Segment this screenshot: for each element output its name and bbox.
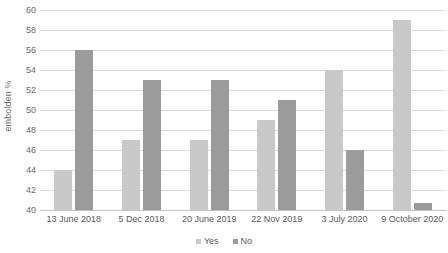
bar-no[interactable]: [414, 203, 432, 210]
bar-yes[interactable]: [122, 140, 140, 210]
bar-no[interactable]: [346, 150, 364, 210]
bar-no[interactable]: [75, 50, 93, 210]
x-axis-tick-label: 9 October 2020: [378, 212, 446, 228]
legend-label: Yes: [204, 237, 219, 246]
y-axis-tick-label: 48: [16, 126, 36, 135]
axis-baseline: [40, 210, 446, 211]
y-axis-tick-label: 52: [16, 86, 36, 95]
bar-yes[interactable]: [393, 20, 411, 210]
bar-group: [108, 10, 176, 210]
legend-item-yes[interactable]: Yes: [196, 237, 219, 246]
bar-no[interactable]: [143, 80, 161, 210]
y-axis-tick-label: 40: [16, 206, 36, 215]
y-axis-tick-label: 60: [16, 6, 36, 15]
x-axis-tick-label: 22 Nov 2019: [243, 212, 311, 228]
bar-chart: embolden % 6058565452504846444240 13 Jun…: [0, 0, 448, 253]
legend-label: No: [241, 237, 253, 246]
y-axis-title-label: embolden %: [3, 80, 13, 131]
legend-swatch-icon: [233, 239, 238, 244]
bar-no[interactable]: [211, 80, 229, 210]
x-axis-tick-labels: 13 June 20185 Dec 201820 June 201922 Nov…: [40, 212, 446, 228]
bar-yes[interactable]: [325, 70, 343, 210]
x-axis-tick-label: 13 June 2018: [40, 212, 108, 228]
bars-layer: [40, 10, 446, 210]
y-axis-tick-label: 58: [16, 26, 36, 35]
plot-area: [40, 10, 446, 210]
bar-group: [378, 10, 446, 210]
y-axis-tick-label: 44: [16, 166, 36, 175]
y-axis-tick-label: 56: [16, 46, 36, 55]
legend-item-no[interactable]: No: [233, 237, 253, 246]
y-axis-tick-label: 42: [16, 186, 36, 195]
bar-yes[interactable]: [190, 140, 208, 210]
x-axis-tick-label: 20 June 2019: [175, 212, 243, 228]
legend-swatch-icon: [196, 239, 201, 244]
bar-group: [175, 10, 243, 210]
bar-yes[interactable]: [54, 170, 72, 210]
y-axis-tick-label: 50: [16, 106, 36, 115]
x-axis-tick-label: 3 July 2020: [311, 212, 379, 228]
bar-no[interactable]: [278, 100, 296, 210]
bar-group: [243, 10, 311, 210]
bar-group: [311, 10, 379, 210]
y-axis-tick-label: 46: [16, 146, 36, 155]
y-axis-title: embolden %: [0, 0, 16, 212]
x-axis-tick-label: 5 Dec 2018: [108, 212, 176, 228]
chart-legend: YesNo: [0, 233, 448, 249]
y-axis-tick-labels: 6058565452504846444240: [16, 10, 38, 210]
bar-group: [40, 10, 108, 210]
y-axis-tick-label: 54: [16, 66, 36, 75]
bar-yes[interactable]: [257, 120, 275, 210]
